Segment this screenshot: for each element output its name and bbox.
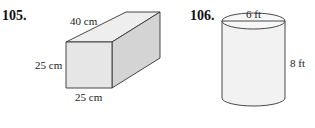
problem-number-105: 105. [2,8,27,24]
prism-height-label: 25 cm [35,59,62,71]
prism-front-face [66,42,112,88]
prism-width-label: 25 cm [75,91,102,103]
cylinder-body [222,21,285,106]
problem-number-106: 106. [190,8,215,24]
cylinder [222,13,285,106]
cylinder-height-label: 8 ft [290,57,305,69]
cylinder-diameter-label: 6 ft [246,8,261,20]
prism-length-label: 40 cm [70,15,97,27]
